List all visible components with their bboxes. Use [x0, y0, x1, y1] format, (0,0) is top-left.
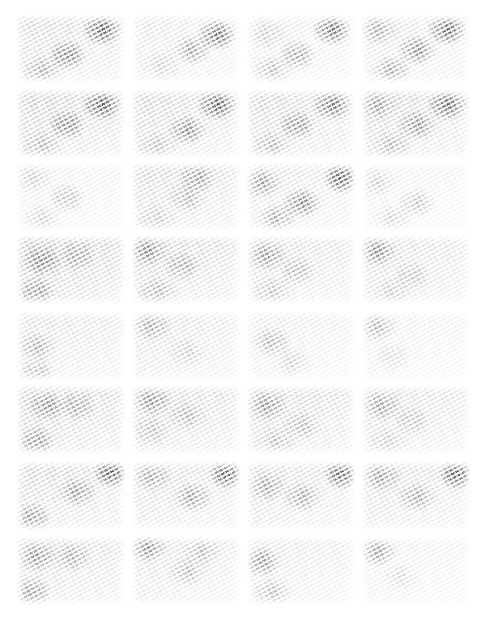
image-thumbnail[interactable]	[247, 236, 355, 304]
image-thumbnail[interactable]	[247, 90, 355, 158]
image-thumbnail[interactable]	[132, 537, 240, 605]
image-thumbnail[interactable]	[17, 537, 125, 605]
image-thumbnail[interactable]	[132, 15, 240, 83]
image-thumbnail[interactable]	[362, 462, 470, 530]
image-thumbnail[interactable]	[132, 462, 240, 530]
image-thumbnail[interactable]	[247, 163, 355, 231]
image-thumbnail[interactable]	[247, 386, 355, 454]
image-thumbnail[interactable]	[17, 15, 125, 83]
image-thumbnail[interactable]	[17, 462, 125, 530]
image-thumbnail[interactable]	[17, 386, 125, 454]
image-thumbnail[interactable]	[247, 537, 355, 605]
image-thumbnail[interactable]	[132, 386, 240, 454]
image-thumbnail[interactable]	[247, 462, 355, 530]
image-thumbnail[interactable]	[132, 312, 240, 380]
image-thumbnail[interactable]	[362, 15, 470, 83]
image-grid	[0, 0, 487, 621]
image-thumbnail[interactable]	[17, 312, 125, 380]
image-thumbnail[interactable]	[132, 90, 240, 158]
image-thumbnail[interactable]	[362, 537, 470, 605]
image-thumbnail[interactable]	[362, 163, 470, 231]
image-thumbnail[interactable]	[247, 15, 355, 83]
image-thumbnail[interactable]	[17, 163, 125, 231]
image-thumbnail[interactable]	[17, 90, 125, 158]
image-thumbnail[interactable]	[362, 386, 470, 454]
image-thumbnail[interactable]	[132, 163, 240, 231]
image-thumbnail[interactable]	[362, 90, 470, 158]
image-thumbnail[interactable]	[362, 236, 470, 304]
image-thumbnail[interactable]	[17, 236, 125, 304]
image-thumbnail[interactable]	[247, 312, 355, 380]
image-thumbnail[interactable]	[362, 312, 470, 380]
image-thumbnail[interactable]	[132, 236, 240, 304]
